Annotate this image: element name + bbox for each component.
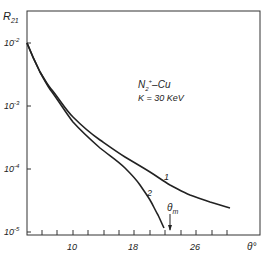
chart: R21 10-2 10-3 10-4 10-5 10 18 26 θ° N2+–…: [0, 0, 271, 260]
annotation-reaction: N2+–Cu: [138, 78, 171, 92]
y-tick-label: 10-3: [4, 100, 20, 111]
x-ticks: [42, 230, 227, 235]
theta-m-label: θm: [167, 202, 178, 215]
annotation-energy: K = 30 KeV: [138, 93, 185, 103]
y-axis-label: R21: [3, 10, 19, 24]
plot-frame: [27, 11, 260, 235]
curve-1-label: 1: [164, 172, 169, 182]
x-tick-label: 18: [128, 242, 138, 252]
y-ticks: [27, 43, 31, 232]
curve-2: [27, 43, 164, 228]
curve-2-label: 2: [146, 188, 152, 198]
y-tick-label: 10-5: [4, 226, 20, 237]
y-tick-label: 10-2: [4, 37, 20, 48]
x-tick-label: 26: [189, 242, 200, 252]
x-axis-label: θ°: [247, 241, 256, 252]
arrow-down-icon: [168, 225, 172, 231]
x-tick-label: 10: [67, 242, 77, 252]
curve-1: [27, 43, 230, 208]
y-tick-label: 10-4: [4, 163, 20, 174]
